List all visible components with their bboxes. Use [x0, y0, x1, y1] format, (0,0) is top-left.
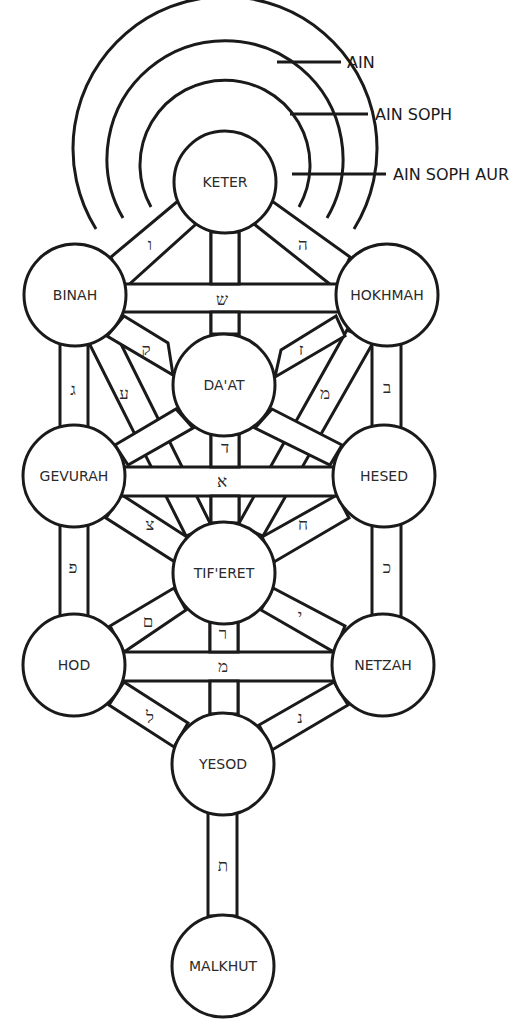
letter-shin: ש: [216, 289, 228, 309]
path-tiferet-yesod-lower: [210, 681, 238, 714]
sefira-hesed: HESED: [333, 425, 435, 527]
sefira-gevurah: GEVURAH: [23, 425, 125, 527]
letter-nun: נ: [297, 707, 303, 727]
sefira-keter: KETER: [174, 131, 276, 233]
label-malkhut: MALKHUT: [189, 958, 257, 974]
letter-mem-hokhmah: מ: [320, 383, 330, 403]
label-ain: AIN: [347, 53, 375, 72]
letter-tav: ת: [218, 855, 228, 875]
path-gevurah-hesed: [120, 467, 338, 496]
label-keter: KETER: [202, 174, 247, 190]
label-hod: HOD: [58, 657, 90, 673]
letter-final-mem: ם: [143, 611, 154, 631]
sefira-hokhmah: HOKHMAH: [336, 244, 438, 346]
letter-he: ה: [298, 234, 308, 254]
path-daat-tiferet-lower: [211, 496, 239, 523]
sefira-netzah: NETZAH: [332, 614, 434, 716]
letter-vav: ו: [148, 234, 152, 254]
letter-kaf: כ: [383, 557, 391, 577]
label-netzah: NETZAH: [354, 657, 412, 673]
letter-qof: ק: [141, 339, 150, 359]
label-ain-soph: AIN SOPH: [375, 105, 452, 124]
letter-lamed: ל: [145, 707, 154, 727]
label-daat: DA'AT: [203, 377, 244, 393]
label-gevurah: GEVURAH: [40, 468, 109, 484]
letter-yod: י: [298, 605, 302, 625]
label-tiferet: TIF'ERET: [193, 565, 255, 581]
tree-of-life-diagram: AIN AIN SOPH AIN SOPH AUR: [0, 0, 526, 1032]
sefira-binah: BINAH: [24, 244, 126, 346]
sefira-daat: DA'AT: [173, 334, 275, 436]
label-ain-soph-aur: AIN SOPH AUR: [393, 165, 509, 184]
letter-pe: פ: [69, 557, 78, 577]
sefira-hod: HOD: [23, 614, 125, 716]
label-binah: BINAH: [53, 287, 97, 303]
path-netzah-yesod: [259, 682, 348, 750]
letter-zayin: ז: [299, 339, 304, 359]
letter-ayin: ע: [119, 383, 129, 403]
letter-dalet: ד: [221, 437, 229, 457]
label-yesod: YESOD: [198, 756, 247, 772]
veil-labels: AIN AIN SOPH AIN SOPH AUR: [277, 53, 509, 184]
path-binah-hokhmah: [120, 284, 342, 312]
label-hokhmah: HOKHMAH: [350, 287, 423, 303]
label-hesed: HESED: [360, 468, 408, 484]
sefira-malkhut: MALKHUT: [172, 915, 274, 1017]
sefira-tiferet: TIF'ERET: [173, 522, 275, 624]
letter-alef: א: [217, 471, 227, 491]
letter-tsadi: צ: [146, 514, 155, 534]
path-tiferet-netzah: [261, 588, 345, 652]
path-hod-netzah: [120, 652, 338, 681]
path-keter-daat-lower: [211, 312, 239, 334]
letter-mem: מ: [218, 656, 228, 676]
letter-gimel: ג: [70, 379, 76, 399]
letter-het: ח: [298, 514, 308, 534]
path-keter-daat-upper: [211, 232, 239, 284]
letter-resh: ר: [219, 623, 227, 643]
sefira-yesod: YESOD: [172, 713, 274, 815]
letter-bet: ב: [383, 377, 391, 397]
